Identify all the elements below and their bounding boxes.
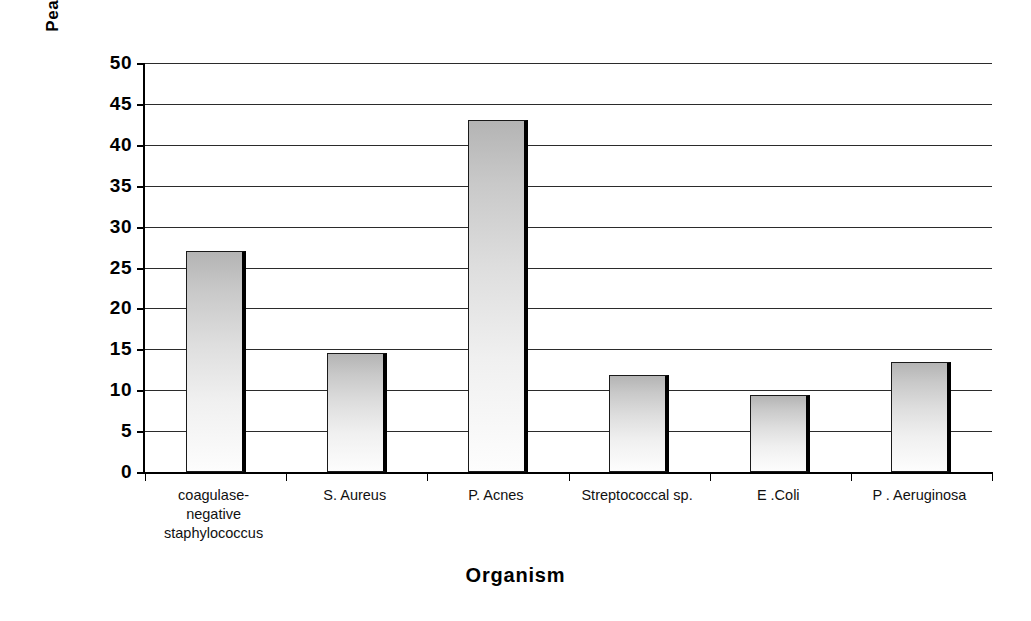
y-axis-tick-label: 45: [86, 94, 132, 113]
bar: [609, 375, 669, 472]
gridline: [145, 431, 992, 432]
bar: [186, 251, 246, 472]
chart-figure: Peak Eosinophil Percentage 5045403530252…: [0, 0, 1031, 621]
y-axis-tick-label: 20: [86, 298, 132, 317]
y-axis-tick-label: 10: [86, 380, 132, 399]
y-axis-tick: [137, 390, 145, 392]
y-axis-tick: [137, 431, 145, 433]
plot-area: [143, 63, 992, 474]
gridline: [145, 186, 992, 187]
y-axis-tick-label: 5: [86, 421, 132, 440]
y-axis-tick: [137, 145, 145, 147]
y-axis-title: Peak Eosinophil Percentage: [38, 0, 68, 120]
gridline: [145, 104, 992, 105]
x-axis-tick: [710, 472, 711, 481]
y-axis-tick-label: 50: [86, 53, 132, 72]
y-axis-tick: [137, 308, 145, 310]
x-axis-tick: [145, 472, 146, 481]
y-axis-tick: [137, 227, 145, 229]
gridline: [145, 227, 992, 228]
gridline: [145, 145, 992, 146]
x-axis-tick: [992, 472, 993, 481]
y-axis-tick-label: 25: [86, 258, 132, 277]
y-axis-tick-labels: 50454035302520151050: [86, 63, 132, 472]
bar: [468, 120, 528, 472]
x-axis-tick: [286, 472, 287, 481]
x-axis-title: Organism: [0, 564, 1031, 587]
bar: [891, 362, 951, 472]
y-axis-tick: [137, 186, 145, 188]
gridline: [145, 63, 992, 64]
y-axis-tick: [137, 349, 145, 351]
y-axis-tick-label: 15: [86, 339, 132, 358]
y-axis-tick-label: 0: [86, 462, 132, 481]
x-axis-category-label: coagulase- negative staphylococcus: [143, 486, 284, 543]
gridline: [145, 349, 992, 350]
x-axis-tick: [427, 472, 428, 481]
x-axis-category-label: S. Aureus: [284, 486, 425, 505]
y-axis-tick: [137, 268, 145, 270]
bar: [327, 353, 387, 472]
gridline: [145, 308, 992, 309]
x-axis-tick: [569, 472, 570, 481]
y-axis-tick: [137, 63, 145, 65]
y-axis-tick: [137, 472, 145, 474]
y-axis-tick-label: 35: [86, 176, 132, 195]
y-axis-tick: [137, 104, 145, 106]
x-axis-category-label: E .Coli: [708, 486, 849, 505]
y-axis-tick-label: 30: [86, 217, 132, 236]
x-axis-category-label: Streptococcal sp.: [567, 486, 708, 505]
x-axis-category-label: P. Acnes: [425, 486, 566, 505]
bar: [750, 395, 810, 472]
x-axis-tick: [851, 472, 852, 481]
gridline: [145, 390, 992, 391]
y-axis-tick-label: 40: [86, 135, 132, 154]
x-axis-category-label: P . Aeruginosa: [849, 486, 990, 505]
gridline: [145, 268, 992, 269]
